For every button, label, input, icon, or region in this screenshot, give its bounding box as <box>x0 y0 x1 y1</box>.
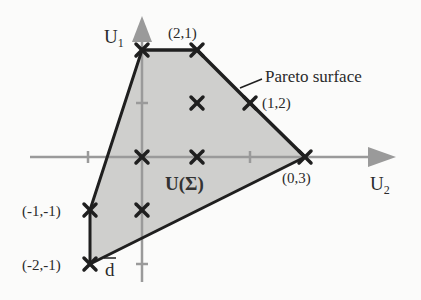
point-label-2-1: (2,1) <box>168 25 197 42</box>
point-label-m1-m1: (-1,-1) <box>22 203 61 220</box>
point-label-0-3: (0,3) <box>282 170 311 187</box>
point-label-m2-m1: (-2,-1) <box>22 257 61 274</box>
pareto-surface-label: Pareto surface <box>265 67 362 86</box>
bargaining-diagram: U1 U2 (2,1) (1,2) (0,3) (-1,-1) (-2,-1) … <box>0 0 421 300</box>
point-label-1-2: (1,2) <box>262 95 291 112</box>
disagreement-point-label: d <box>105 259 115 280</box>
region-label: U(Σ) <box>165 173 204 195</box>
